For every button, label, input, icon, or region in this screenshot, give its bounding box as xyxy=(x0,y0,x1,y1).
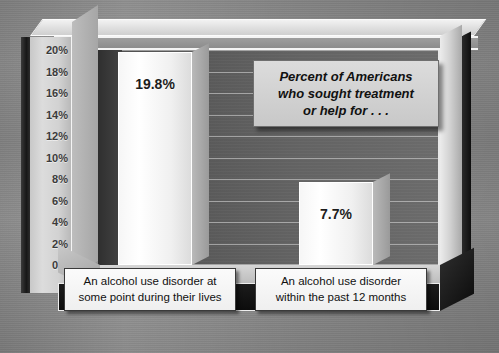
category-label-0-line-2: some point during their lives xyxy=(71,290,229,306)
chart-title-callout: Percent of Americans who sought treatmen… xyxy=(253,60,439,127)
y-axis-tick-8: 8% xyxy=(52,174,68,185)
category-label-box-0: An alcohol use disorder at some point du… xyxy=(64,268,236,311)
bar-side-face xyxy=(373,174,390,265)
y-axis-tick-6: 6% xyxy=(52,196,68,207)
y-axis-tick-4: 4% xyxy=(52,217,68,228)
chart-frame-top-slab xyxy=(30,19,486,36)
category-label-box-1: An alcohol use disorder within the past … xyxy=(255,268,427,311)
category-label-1-line-2: within the past 12 months xyxy=(262,290,420,306)
bar-side-face xyxy=(192,43,209,265)
y-axis-tick-20: 20% xyxy=(46,45,68,56)
y-axis-tick-18: 18% xyxy=(46,67,68,78)
bar-value-label-0: 19.8% xyxy=(118,76,192,92)
bar-alcohol-use-disorder-past-12-months[interactable]: 7.7% xyxy=(299,182,373,265)
y-axis-tick-10: 10% xyxy=(46,153,68,164)
bar-alcohol-use-disorder-lifetime[interactable]: 19.8% xyxy=(118,52,192,265)
chart-title-line-3: or help for . . . xyxy=(262,102,430,119)
chart-title-line-2: who sought treatment xyxy=(262,85,430,102)
bar-chart-3d: 20%18%16%14%12%10%8%6%4%2%0% 19.8% 7.7% … xyxy=(0,0,499,353)
y-axis-wall-side xyxy=(72,5,98,278)
bar-value-label-1: 7.7% xyxy=(299,206,373,222)
y-axis-tick-12: 12% xyxy=(46,131,68,142)
y-axis-tick-16: 16% xyxy=(46,88,68,99)
bar-front-face xyxy=(299,182,373,265)
y-axis-tick-14: 14% xyxy=(46,110,68,121)
chart-frame-right-shadow xyxy=(462,31,471,280)
category-label-1-line-1: An alcohol use disorder xyxy=(262,274,420,290)
y-axis-outer-edge xyxy=(21,37,30,293)
chart-frame-top-band xyxy=(54,36,478,50)
chart-frame-right-wall xyxy=(440,25,462,276)
chart-title-line-1: Percent of Americans xyxy=(262,68,430,85)
category-label-0-line-1: An alcohol use disorder at xyxy=(71,274,229,290)
